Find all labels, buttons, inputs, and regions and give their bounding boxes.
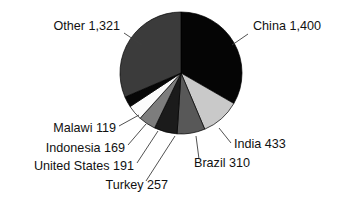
pie-label-brazil: Brazil 310 — [194, 156, 250, 170]
pie-label-united-states: United States 191 — [34, 159, 134, 173]
pie-label-other: Other 1,321 — [53, 19, 120, 33]
pie-chart-canvas: China 1,400India 433Brazil 310Turkey 257… — [0, 0, 350, 204]
pie-label-malawi: Malawi 119 — [53, 121, 116, 135]
leader-line-united-states — [137, 131, 158, 163]
pie-label-china: China 1,400 — [253, 19, 321, 33]
leader-line-india — [219, 128, 231, 143]
leader-line-malawi — [119, 115, 139, 126]
leader-line-indonesia — [128, 124, 146, 145]
pie-label-india: India 433 — [234, 137, 286, 151]
leader-line-china — [232, 34, 248, 45]
pie-chart-figure: China 1,400India 433Brazil 310Turkey 257… — [0, 0, 350, 204]
pie-label-turkey: Turkey 257 — [105, 178, 168, 192]
pie-label-indonesia: Indonesia 169 — [46, 141, 125, 155]
